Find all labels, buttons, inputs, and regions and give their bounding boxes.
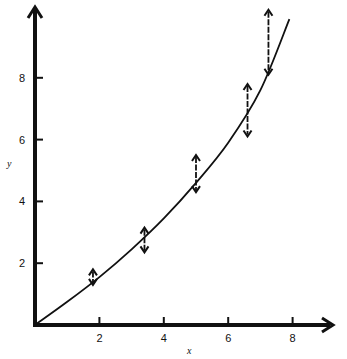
fitted-curve bbox=[35, 19, 289, 325]
y-ticks: 2468 bbox=[19, 72, 43, 269]
x-tick-label: 8 bbox=[290, 332, 296, 344]
y-axis bbox=[28, 7, 42, 326]
y-tick-label: 4 bbox=[19, 195, 25, 207]
y-tick-label: 6 bbox=[19, 134, 25, 146]
y-tick-label: 2 bbox=[19, 257, 25, 269]
error-bars bbox=[89, 10, 272, 285]
x-axis-label: x bbox=[186, 345, 192, 356]
x-ticks: 2468 bbox=[96, 317, 295, 344]
x-tick-label: 6 bbox=[225, 332, 231, 344]
error-bar bbox=[192, 155, 200, 192]
error-bar bbox=[89, 269, 97, 284]
x-tick-label: 2 bbox=[96, 332, 102, 344]
y-tick-label: 8 bbox=[19, 72, 25, 84]
y-axis-label: y bbox=[6, 158, 12, 169]
chart: 2468 2468 y x bbox=[0, 0, 347, 359]
x-tick-label: 4 bbox=[161, 332, 167, 344]
x-axis bbox=[33, 318, 333, 332]
